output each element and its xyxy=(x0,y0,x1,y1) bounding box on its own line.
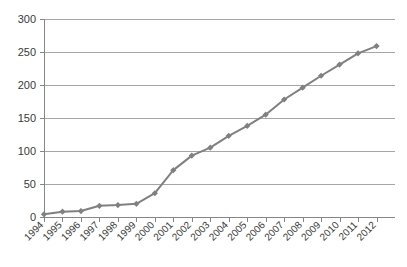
y-axis-tick-label: 300 xyxy=(18,13,36,25)
x-axis-tick-label: 2007 xyxy=(262,219,286,243)
x-axis-tick-label: 2006 xyxy=(244,219,268,243)
x-axis-tick-label: 1995 xyxy=(40,219,64,243)
data-point-marker xyxy=(78,208,84,214)
y-axis-tick-label: 250 xyxy=(18,46,36,58)
x-axis-tick-labels: 1994199519961997199819992000200120022003… xyxy=(22,219,378,243)
x-axis-tick-label: 2009 xyxy=(299,219,323,243)
x-axis-tick-label: 2003 xyxy=(188,219,212,243)
series-line xyxy=(44,46,377,214)
x-axis-tick-label: 1996 xyxy=(59,219,83,243)
x-axis-tick-label: 2012 xyxy=(354,219,378,243)
x-axis-tick-label: 1998 xyxy=(96,219,120,243)
x-axis-tick-label: 2001 xyxy=(151,219,175,243)
data-point-marker xyxy=(96,203,102,209)
y-axis-tick-label: 150 xyxy=(18,112,36,124)
y-axis xyxy=(40,19,45,218)
y-axis-tick-label: 100 xyxy=(18,145,36,157)
data-point-marker xyxy=(41,211,47,217)
y-axis-tick-label: 200 xyxy=(18,79,36,91)
x-axis-tick-label: 1999 xyxy=(114,219,138,243)
data-point-marker xyxy=(373,43,379,49)
x-axis-tick-label: 2008 xyxy=(281,219,305,243)
x-axis-tick-label: 2000 xyxy=(133,219,157,243)
x-axis-tick-label: 1994 xyxy=(22,219,46,243)
data-point-marker xyxy=(115,202,121,208)
x-axis-tick-label: 2005 xyxy=(225,219,249,243)
data-series xyxy=(44,46,377,214)
x-axis-tick-label: 1997 xyxy=(77,219,101,243)
data-point-marker xyxy=(59,209,65,215)
gridlines xyxy=(44,20,395,185)
chart-canvas: 050100150200250300 199419951996199719981… xyxy=(0,0,407,267)
x-axis-tick-label: 2010 xyxy=(317,219,341,243)
x-axis-tick-label: 2011 xyxy=(336,219,359,242)
y-axis-tick-labels: 050100150200250300 xyxy=(18,13,36,223)
x-axis-tick-label: 2004 xyxy=(207,219,231,243)
x-axis-tick-label: 2002 xyxy=(170,219,194,243)
data-point-markers xyxy=(41,43,380,218)
y-axis-tick-label: 50 xyxy=(24,178,36,190)
line-chart: 050100150200250300 199419951996199719981… xyxy=(0,0,407,267)
